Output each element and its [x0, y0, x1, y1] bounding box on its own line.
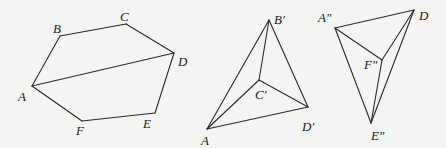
figure-tetrahedron-1: AB′C′D′	[200, 12, 314, 148]
figure-hexagon: ABCDEF	[17, 9, 188, 138]
vertex-label-Dp: D′	[301, 119, 314, 134]
edge-A-B	[32, 36, 60, 86]
vertex-label-A: A	[17, 89, 26, 104]
edge-Bp-Dp	[269, 20, 308, 107]
edge-A-Dp	[207, 107, 308, 129]
vertex-label-D: D	[177, 54, 188, 69]
vertex-label-F: F	[75, 123, 85, 138]
vertex-label-A: A	[200, 133, 209, 148]
vertex-label-Bp: B′	[274, 12, 285, 27]
edge-A-D	[32, 53, 174, 86]
diagram-svg: ABCDEFAB′C′D′A″DF″E″	[0, 0, 446, 148]
edge-D-E	[155, 53, 174, 113]
edge-F-A	[32, 86, 82, 121]
vertex-label-Epp: E″	[370, 128, 385, 143]
figure-tetrahedron-2: A″DF″E″	[317, 8, 429, 143]
edge-App-D	[335, 10, 414, 28]
edge-C-D	[126, 24, 174, 53]
vertex-label-C: C	[120, 9, 129, 24]
edge-D-Epp	[371, 10, 414, 123]
vertex-label-Cp: C′	[255, 87, 267, 102]
vertex-label-E: E	[142, 116, 151, 131]
geometry-diagram: ABCDEFAB′C′D′A″DF″E″	[0, 0, 446, 148]
edge-Cp-A	[207, 80, 259, 129]
vertex-label-B: B	[53, 21, 61, 36]
vertex-label-D: D	[418, 8, 429, 23]
edge-App-Fpp	[335, 28, 382, 60]
vertex-label-App: A″	[317, 10, 332, 25]
edge-B-C	[60, 24, 126, 36]
vertex-label-Fpp: F″	[363, 57, 378, 72]
edge-App-Epp	[335, 28, 371, 123]
